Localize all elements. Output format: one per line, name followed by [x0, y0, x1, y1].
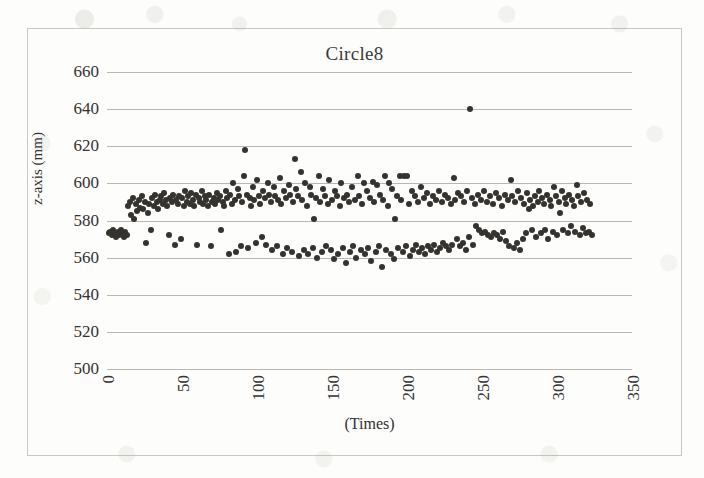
data-point: [263, 242, 269, 248]
data-point: [335, 251, 341, 257]
data-point: [304, 203, 310, 209]
data-point: [239, 199, 245, 205]
data-point: [233, 249, 239, 255]
data-point: [242, 147, 248, 153]
data-point: [278, 201, 284, 207]
data-point: [415, 199, 421, 205]
data-point: [563, 201, 569, 207]
data-point: [191, 203, 197, 209]
data-point: [148, 227, 154, 233]
data-point: [373, 249, 379, 255]
data-point: [194, 242, 200, 248]
data-point: [520, 236, 526, 242]
data-point: [490, 201, 496, 207]
data-point: [514, 240, 520, 246]
data-point: [571, 203, 577, 209]
data-point: [452, 197, 458, 203]
data-point: [418, 184, 424, 190]
data-point: [250, 184, 256, 190]
data-point: [361, 180, 367, 186]
y-tick-label: 520: [74, 322, 100, 342]
y-axis-tick-labels: 500520540560580600620640660: [0, 72, 99, 369]
plot-area: [107, 72, 632, 369]
y-tick-label: 640: [74, 99, 100, 119]
data-point: [499, 203, 505, 209]
data-point: [376, 243, 382, 249]
y-tick-label: 560: [74, 248, 100, 268]
data-point: [556, 199, 562, 205]
data-point: [277, 175, 283, 181]
data-point: [427, 201, 433, 207]
x-tick-label: 0: [99, 375, 119, 384]
data-point: [368, 258, 374, 264]
data-point: [487, 193, 493, 199]
data-point: [463, 247, 469, 253]
data-point: [296, 253, 302, 259]
chart-title: Circle8: [28, 43, 681, 65]
data-point: [208, 243, 214, 249]
data-point: [365, 245, 371, 251]
data-point: [268, 199, 274, 205]
data-point: [359, 201, 365, 207]
data-point: [512, 199, 518, 205]
data-point: [541, 201, 547, 207]
data-point: [328, 247, 334, 253]
x-tick-label: 150: [324, 375, 344, 401]
data-point: [353, 255, 359, 261]
data-point: [460, 240, 466, 246]
data-point: [292, 156, 298, 162]
data-point: [362, 251, 368, 257]
data-point: [274, 243, 280, 249]
data-point: [334, 193, 340, 199]
data-point: [340, 245, 346, 251]
x-tick-label: 350: [624, 375, 644, 401]
x-tick-label: 250: [474, 375, 494, 401]
data-point: [545, 236, 551, 242]
data-point: [286, 182, 292, 188]
data-point: [238, 243, 244, 249]
data-point: [241, 173, 247, 179]
data-point: [310, 245, 316, 251]
data-point: [254, 177, 260, 183]
data-point: [143, 240, 149, 246]
data-point: [589, 232, 595, 238]
data-point: [551, 184, 557, 190]
y-tick-label: 500: [74, 359, 100, 379]
data-point: [481, 188, 487, 194]
data-point: [407, 253, 413, 259]
data-point: [350, 243, 356, 249]
data-point: [320, 186, 326, 192]
data-point: [337, 203, 343, 209]
x-tick-label: 50: [174, 375, 194, 392]
data-point: [496, 195, 502, 201]
y-tick-label: 600: [74, 173, 100, 193]
data-point: [221, 203, 227, 209]
data-point: [349, 184, 355, 190]
data-point: [557, 210, 563, 216]
data-point: [155, 206, 161, 212]
data-point: [257, 201, 263, 207]
data-point: [466, 234, 472, 240]
data-point: [338, 180, 344, 186]
data-point: [389, 186, 395, 192]
data-point: [374, 182, 380, 188]
x-axis-title: (Times): [107, 415, 632, 433]
data-point: [307, 184, 313, 190]
data-point: [322, 193, 328, 199]
data-point: [559, 188, 565, 194]
data-point: [587, 201, 593, 207]
data-point: [290, 199, 296, 205]
data-point: [515, 188, 521, 194]
data-point: [574, 182, 580, 188]
data-point: [287, 192, 293, 198]
x-tick-label: 100: [249, 375, 269, 401]
data-point: [289, 249, 295, 255]
data-point: [124, 232, 130, 238]
data-point: [421, 195, 427, 201]
data-point: [245, 245, 251, 251]
y-tick-label: 620: [74, 136, 100, 156]
data-point: [235, 186, 241, 192]
data-point: [305, 251, 311, 257]
y-tick-label: 540: [74, 285, 100, 305]
data-point: [316, 173, 322, 179]
